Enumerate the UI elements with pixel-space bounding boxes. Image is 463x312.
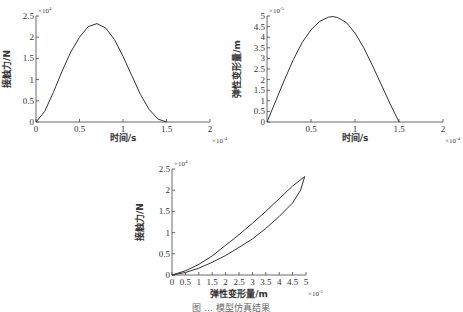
y-tick-label: 0.5: [254, 106, 266, 116]
y-tick-label: 2: [166, 185, 171, 195]
x-tick-label: 0.5: [180, 277, 192, 287]
y-multiplier: ×104: [174, 159, 188, 168]
y-tick-label: 2: [261, 75, 266, 85]
y-tick-label: 1.5: [23, 53, 35, 63]
y-tick-label: 4: [261, 32, 266, 42]
y-axis-label: 弹性变形量/m: [231, 40, 242, 98]
y-multiplier: ×10-5: [269, 6, 285, 15]
data-series-line: [172, 177, 305, 275]
x-tick-label: 1.5: [161, 124, 173, 134]
y-tick-label: 2.5: [23, 11, 35, 21]
x-tick-label: 0.5: [305, 124, 317, 134]
y-tick-label: 1.5: [159, 206, 171, 216]
y-axis-label: 接触力/N: [1, 50, 12, 88]
data-series-line: [172, 177, 305, 275]
y-tick-label: 2: [30, 32, 35, 42]
y-tick-label: 2.5: [254, 64, 266, 74]
y-tick-label: 0.5: [23, 96, 35, 106]
x-multiplier: ×10-5: [308, 289, 324, 298]
x-multiplier: ×10-4: [445, 136, 461, 145]
x-tick-label: 2.5: [233, 277, 245, 287]
figure-caption: 图 ... 模型仿真结果: [192, 302, 269, 312]
x-tick-label: 1.5: [207, 277, 219, 287]
x-tick-label: 2: [208, 124, 213, 134]
chart-force-vs-time: 00.511.522.500.511.52×104×10-4时间/s接触力/N: [1, 6, 228, 145]
x-tick-label: 0.5: [74, 124, 86, 134]
data-series-line: [267, 17, 399, 122]
y-tick-label: 4.5: [254, 22, 266, 32]
x-tick-label: 4.5: [287, 277, 299, 287]
chart-deformation-vs-time: 00.511.522.533.544.550.511.52×10-5×10-4时…: [231, 6, 461, 145]
x-tick-label: 0: [34, 124, 39, 134]
x-tick-label: 2: [441, 124, 446, 134]
x-tick-label: 1.5: [393, 124, 405, 134]
y-tick-label: 3.5: [254, 43, 266, 53]
y-tick-label: 1: [30, 75, 35, 85]
x-tick-label: 5: [304, 277, 309, 287]
x-tick-label: 3: [250, 277, 255, 287]
data-series-line: [36, 24, 167, 122]
x-tick-label: 4: [277, 277, 282, 287]
figure-canvas: 00.511.522.500.511.52×104×10-4时间/s接触力/N …: [0, 0, 463, 312]
y-tick-label: 5: [261, 11, 266, 21]
y-tick-label: 0: [261, 117, 266, 127]
x-tick-label: 0: [170, 277, 175, 287]
x-axis-label: 时间/s: [342, 132, 369, 143]
x-tick-label: 1: [197, 277, 202, 287]
y-tick-label: 0.5: [159, 249, 171, 259]
y-tick-label: 2.5: [159, 164, 171, 174]
x-axis-label: 时间/s: [110, 132, 137, 143]
x-tick-label: 3.5: [260, 277, 272, 287]
y-tick-label: 1.5: [254, 85, 266, 95]
x-axis-label: 弹性变形量/m: [210, 288, 268, 299]
x-tick-label: 2: [223, 277, 228, 287]
y-multiplier: ×104: [38, 6, 52, 15]
x-multiplier: ×10-4: [212, 136, 228, 145]
y-tick-label: 3: [261, 53, 266, 63]
y-axis-label: 接触力/N: [134, 203, 145, 241]
chart-force-vs-deformation: 00.511.522.500.511.522.533.544.55×104×10…: [134, 159, 324, 299]
y-tick-label: 1: [166, 228, 171, 238]
y-tick-label: 1: [261, 96, 266, 106]
